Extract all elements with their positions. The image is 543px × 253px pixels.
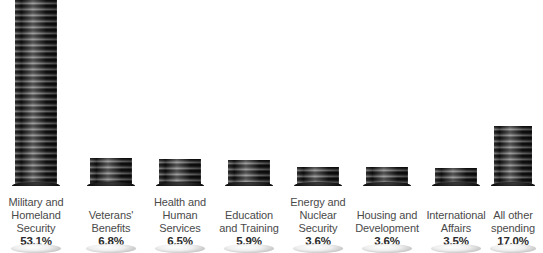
label-all-other-spending: All otherspending17.0%: [478, 209, 543, 248]
label-line: Education: [214, 209, 284, 222]
coin-stack-veterans-benefits: [85, 158, 137, 186]
stack-edge-right: [57, 0, 62, 186]
stack-edge-right: [132, 158, 137, 186]
coin-top-face: [293, 244, 343, 253]
label-line: and Training: [214, 222, 284, 235]
coin-stack-body: [10, 0, 62, 186]
coin-stack-housing-and-development: [361, 167, 413, 186]
label-health-and-human-services: Health andHumanServices6.5%: [145, 196, 215, 248]
label-line: Housing and: [352, 209, 422, 222]
coin-top-face: [86, 244, 136, 253]
stack-edge-left: [489, 126, 494, 186]
coin-bottom-face: [87, 182, 135, 186]
coin-top-face: [431, 244, 481, 253]
coin-stack-body: [85, 158, 137, 186]
stack-edge-right: [270, 160, 275, 186]
coin-bottom-face: [432, 182, 480, 186]
label-energy-and-nuclear-security: Energy andNuclearSecurity3.6%: [283, 196, 353, 248]
label-line: Services: [145, 222, 215, 235]
stack-edge-right: [201, 159, 206, 186]
coin-stack-body: [489, 126, 537, 186]
label-veterans-benefits: Veterans'Benefits6.8%: [76, 209, 146, 248]
coin-stack-body: [361, 167, 413, 186]
coin-bottom-face: [225, 182, 273, 186]
coin-bottom-face: [156, 182, 204, 186]
coin-edges: [10, 0, 62, 186]
stack-edge-right: [532, 126, 537, 186]
coin-stack-body: [154, 159, 206, 186]
coin-bottom-face: [491, 182, 535, 186]
label-line: Health and: [145, 196, 215, 209]
coin-top-face: [11, 244, 61, 253]
label-line: Homeland: [1, 209, 71, 222]
stack-edge-left: [223, 160, 228, 186]
label-line: Security: [1, 222, 71, 235]
label-line: Human: [145, 209, 215, 222]
coin-stack-military-and-homeland-security: [10, 0, 62, 186]
coin-bottom-face: [294, 182, 342, 186]
label-military-and-homeland-security: Military andHomelandSecurity53.1%: [1, 196, 71, 248]
label-line: All other: [478, 209, 543, 222]
stack-edge-left: [10, 0, 15, 186]
coin-stack-body: [430, 168, 482, 186]
coin-top-face: [155, 244, 205, 253]
label-line: Security: [283, 222, 353, 235]
coin-bottom-face: [12, 182, 60, 186]
coin-top-face: [362, 244, 412, 253]
coin-stack-all-other-spending: [487, 126, 539, 186]
coin-stack-education-and-training: [223, 160, 275, 186]
label-line: Nuclear: [283, 209, 353, 222]
label-line: Military and: [1, 196, 71, 209]
coin-stack-energy-and-nuclear-security: [292, 167, 344, 186]
coin-stack-body: [292, 167, 344, 186]
coin-stack-health-and-human-services: [154, 159, 206, 186]
stack-edge-left: [85, 158, 90, 186]
label-line: Benefits: [76, 222, 146, 235]
label-line: spending: [478, 222, 543, 235]
coin-top-face: [490, 244, 536, 253]
coin-edges: [489, 126, 537, 186]
label-line: Veterans': [76, 209, 146, 222]
coin-stack-international-affairs: [430, 168, 482, 186]
label-line: Development: [352, 222, 422, 235]
stack-edge-left: [154, 159, 159, 186]
coin-stack-body: [223, 160, 275, 186]
coin-bottom-face: [363, 182, 411, 186]
label-line: Energy and: [283, 196, 353, 209]
label-education-and-training: Educationand Training5.9%: [214, 209, 284, 248]
coin-top-face: [224, 244, 274, 253]
label-housing-and-development: Housing andDevelopment3.6%: [352, 209, 422, 248]
